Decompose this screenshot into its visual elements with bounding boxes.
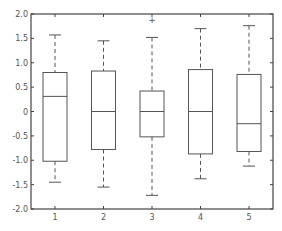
y-tick-label: -1.5 [12,181,28,190]
iqr-box [43,73,67,162]
outlier-marker: + [148,15,156,25]
box-5 [237,26,261,166]
y-tick-label: 1.5 [15,34,28,43]
y-tick-label: 0 [23,108,28,117]
iqr-box [140,91,164,137]
y-tick-label: -2.0 [12,205,28,214]
y-tick-label: -0.5 [12,132,28,141]
box-3: + [140,15,164,195]
boxes-layer: + [43,15,261,195]
y-tick-label: 2.0 [15,10,28,19]
x-tick-label: 1 [52,213,57,222]
y-tick-label: 1.0 [15,59,28,68]
x-tick-label: 2 [101,213,106,222]
iqr-box [237,74,261,151]
box-1 [43,35,67,182]
boxplot-chart: 2.01.51.00.50-0.5-1.0-1.5-2.0 12345 + [0,0,282,231]
y-tick-label: -1.0 [12,156,28,165]
iqr-box [92,71,116,149]
x-tick-label: 3 [149,213,154,222]
x-tick-label: 5 [246,213,251,222]
x-tick-label: 4 [198,213,203,222]
box-4 [189,29,213,179]
box-2 [92,41,116,187]
y-tick-label: 0.5 [15,83,28,92]
